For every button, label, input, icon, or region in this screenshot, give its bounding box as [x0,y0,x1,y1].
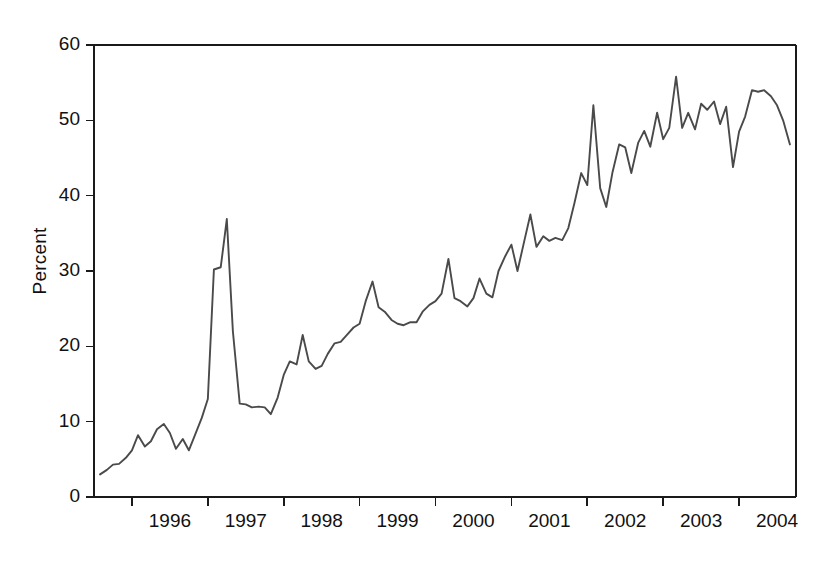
y-tick-label: 50 [34,108,80,130]
y-tick-label: 40 [34,184,80,206]
y-tick-label: 20 [34,334,80,356]
x-tick-label: 1996 [130,510,210,532]
data-series-group [100,77,790,475]
x-tick-label: 2002 [585,510,665,532]
x-tick-label: 2004 [737,510,817,532]
y-tick-label: 60 [34,33,80,55]
x-tick-label: 1998 [282,510,362,532]
tick-marks-group [86,45,739,506]
x-tick-label: 1999 [358,510,438,532]
y-tick-label: 10 [34,410,80,432]
data-line-series [100,77,790,475]
y-tick-label: 0 [34,485,80,507]
line-chart-plot [0,0,827,561]
x-tick-label: 2000 [433,510,513,532]
x-tick-label: 2001 [509,510,589,532]
x-tick-label: 2003 [661,510,741,532]
x-tick-label: 1997 [206,510,286,532]
chart-figure: Percent 0102030405060 199619971998199920… [0,0,827,561]
y-tick-label: 30 [34,259,80,281]
axes-group [94,45,796,497]
